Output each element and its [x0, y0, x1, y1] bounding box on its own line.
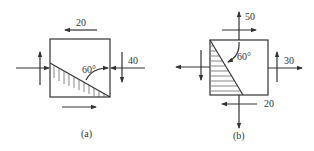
caption-a: (a) [81, 128, 92, 140]
label-bottom-shear-b: 20 [264, 98, 274, 109]
inclined-plane-b [210, 40, 243, 95]
caption-b: (b) [233, 130, 245, 142]
stress-element-diagrams: 20 40 60° (a) [0, 0, 314, 151]
label-top-normal-b: 50 [245, 11, 255, 22]
label-angle-a: 60° [82, 64, 96, 75]
label-angle-b: 60° [237, 51, 251, 62]
label-right-normal-b: 30 [284, 55, 294, 66]
label-right-normal-a: 40 [128, 55, 138, 66]
figure-a: 20 40 60° (a) [16, 17, 145, 140]
label-top-shear-a: 20 [76, 17, 86, 28]
figure-b: 50 20 30 60° (b) [176, 11, 302, 142]
